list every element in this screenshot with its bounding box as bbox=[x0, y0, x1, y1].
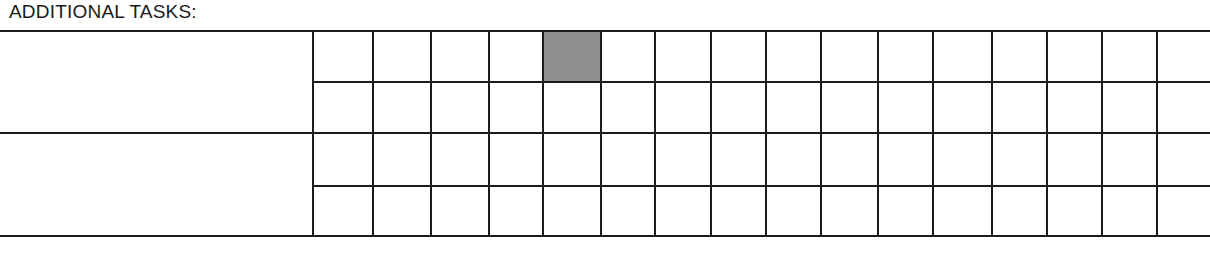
grid-cell[interactable] bbox=[602, 187, 654, 235]
grid-cell[interactable] bbox=[993, 32, 1046, 81]
grid-cell[interactable] bbox=[1103, 83, 1156, 132]
grid-cell[interactable] bbox=[1103, 134, 1156, 185]
grid-cell[interactable] bbox=[374, 32, 430, 81]
table-column-divider bbox=[1046, 30, 1048, 237]
grid-cell[interactable] bbox=[314, 187, 372, 235]
grid-cell[interactable] bbox=[544, 83, 600, 132]
grid-cell[interactable] bbox=[1048, 32, 1101, 81]
grid-cell[interactable] bbox=[934, 83, 991, 132]
grid-cell[interactable] bbox=[993, 134, 1046, 185]
section-title: ADDITIONAL TASKS: bbox=[9, 1, 197, 23]
grid-cell[interactable] bbox=[490, 83, 542, 132]
grid-cell[interactable] bbox=[1158, 32, 1210, 81]
table-row-divider bbox=[0, 235, 1210, 237]
grid-cell[interactable] bbox=[767, 32, 820, 81]
table-row-divider bbox=[0, 132, 1210, 134]
table-row-divider bbox=[0, 30, 1210, 32]
grid-cell[interactable] bbox=[712, 187, 765, 235]
table-column-divider bbox=[430, 30, 432, 237]
grid-cell[interactable] bbox=[314, 134, 372, 185]
grid-cell[interactable] bbox=[1048, 134, 1101, 185]
grid-cell[interactable] bbox=[374, 83, 430, 132]
table-column-divider bbox=[654, 30, 656, 237]
table-column-divider bbox=[932, 30, 934, 237]
table-column-divider bbox=[991, 30, 993, 237]
grid-cell[interactable] bbox=[432, 32, 488, 81]
grid-cell[interactable] bbox=[993, 83, 1046, 132]
table-column-divider bbox=[765, 30, 767, 237]
grid-cell[interactable] bbox=[712, 134, 765, 185]
grid-cell[interactable] bbox=[822, 83, 877, 132]
grid-cell[interactable] bbox=[879, 32, 932, 81]
table-column-divider bbox=[820, 30, 822, 237]
grid-cell[interactable] bbox=[656, 32, 710, 81]
table-column-divider bbox=[372, 30, 374, 237]
grid-cell[interactable] bbox=[879, 187, 932, 235]
grid-cell[interactable] bbox=[656, 134, 710, 185]
grid-cell[interactable] bbox=[544, 134, 600, 185]
grid-cell[interactable] bbox=[822, 134, 877, 185]
grid-cell[interactable] bbox=[432, 83, 488, 132]
grid-cell[interactable] bbox=[879, 83, 932, 132]
table-column-divider bbox=[312, 30, 314, 237]
table-column-divider bbox=[1156, 30, 1158, 237]
grid-cell-shaded[interactable] bbox=[544, 32, 600, 81]
table-row-divider bbox=[312, 81, 1210, 83]
grid-cell[interactable] bbox=[314, 83, 372, 132]
table-column-divider bbox=[877, 30, 879, 237]
grid-cell[interactable] bbox=[934, 32, 991, 81]
grid-cell[interactable] bbox=[314, 32, 372, 81]
grid-cell[interactable] bbox=[1158, 83, 1210, 132]
grid-cell[interactable] bbox=[656, 83, 710, 132]
grid-cell[interactable] bbox=[1048, 83, 1101, 132]
grid-cell[interactable] bbox=[1103, 32, 1156, 81]
grid-cell[interactable] bbox=[374, 187, 430, 235]
grid-cell[interactable] bbox=[993, 187, 1046, 235]
grid-cell[interactable] bbox=[1048, 187, 1101, 235]
table-column-divider bbox=[600, 30, 602, 237]
grid-cell[interactable] bbox=[767, 83, 820, 132]
grid-cell[interactable] bbox=[767, 134, 820, 185]
task-label-cell-2[interactable] bbox=[0, 134, 311, 235]
task-label-cell-1[interactable] bbox=[0, 32, 311, 132]
grid-cell[interactable] bbox=[432, 134, 488, 185]
grid-cell[interactable] bbox=[822, 187, 877, 235]
grid-cell[interactable] bbox=[602, 32, 654, 81]
table-row-divider bbox=[312, 185, 1210, 187]
grid-cell[interactable] bbox=[767, 187, 820, 235]
grid-cell[interactable] bbox=[432, 187, 488, 235]
grid-cell[interactable] bbox=[602, 83, 654, 132]
grid-cell[interactable] bbox=[934, 187, 991, 235]
grid-cell[interactable] bbox=[712, 32, 765, 81]
grid-cell[interactable] bbox=[490, 187, 542, 235]
grid-cell[interactable] bbox=[490, 134, 542, 185]
grid-cell[interactable] bbox=[822, 32, 877, 81]
table-column-divider bbox=[710, 30, 712, 237]
grid-cell[interactable] bbox=[656, 187, 710, 235]
grid-cell[interactable] bbox=[374, 134, 430, 185]
table-column-divider bbox=[1101, 30, 1103, 237]
grid-cell[interactable] bbox=[544, 187, 600, 235]
grid-cell[interactable] bbox=[879, 134, 932, 185]
grid-cell[interactable] bbox=[1158, 134, 1210, 185]
grid-cell[interactable] bbox=[712, 83, 765, 132]
grid-cell[interactable] bbox=[1158, 187, 1210, 235]
grid-cell[interactable] bbox=[602, 134, 654, 185]
table-column-divider bbox=[542, 30, 544, 237]
grid-cell[interactable] bbox=[934, 134, 991, 185]
grid-cell[interactable] bbox=[490, 32, 542, 81]
grid-cell[interactable] bbox=[1103, 187, 1156, 235]
table-column-divider bbox=[488, 30, 490, 237]
